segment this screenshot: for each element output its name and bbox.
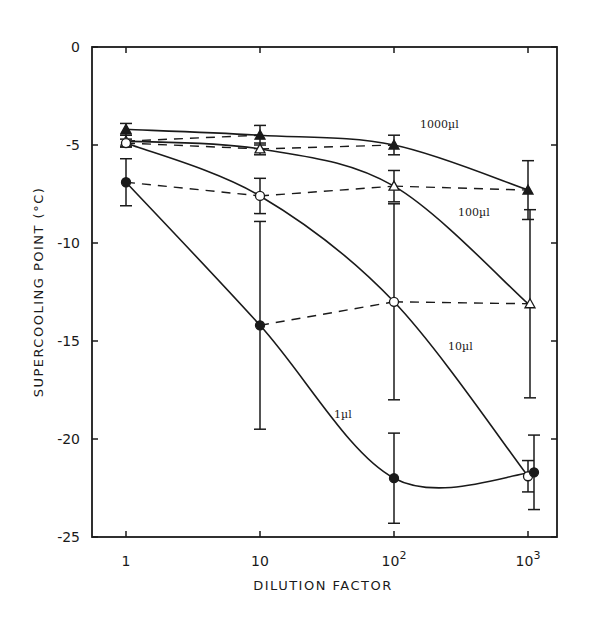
dashed-connector <box>394 186 528 190</box>
dashed-connector <box>260 145 394 149</box>
y-tick-label: -15 <box>57 333 80 349</box>
series-curves <box>126 129 534 488</box>
x-tick-label: 1 <box>122 553 131 569</box>
filled-circle-marker <box>530 468 539 477</box>
series-label: 1000µl <box>420 118 459 131</box>
dashed-connector <box>126 135 260 141</box>
curve-3 <box>126 182 534 488</box>
y-tick-label: -20 <box>57 431 80 447</box>
open-circle-marker <box>390 297 399 306</box>
series-label: 10µl <box>448 340 473 353</box>
axes-box <box>92 47 557 537</box>
open-circle-marker <box>256 191 265 200</box>
y-tick-label: -5 <box>66 137 80 153</box>
filled-circle-marker <box>390 474 399 483</box>
y-axis-title: SUPERCOOLING POINT (°C) <box>31 187 46 398</box>
filled-circle-marker <box>256 321 265 330</box>
x-tick-label: 102 <box>382 549 407 569</box>
series-labels: 1000µl100µl10µl1µl <box>334 118 490 421</box>
y-tick-label: -25 <box>57 529 80 545</box>
curve-0 <box>126 129 528 190</box>
series-label: 1µl <box>334 408 352 421</box>
x-axis-title: DILUTION FACTOR <box>253 578 393 593</box>
plot-frame <box>92 47 557 537</box>
series-label: 100µl <box>458 206 490 219</box>
x-tick-label: 10 <box>251 553 269 569</box>
y-axis-ticks: 0-5-10-15-20-25 <box>57 39 557 545</box>
dashed-connector <box>260 302 394 326</box>
x-axis-ticks: 110102103 <box>122 47 541 569</box>
open-circle-marker <box>122 139 131 148</box>
curve-1 <box>126 141 528 304</box>
supercooling-chart: 0-5-10-15-20-25 110102103 1000µl100µl10µ… <box>0 0 589 620</box>
error-bars <box>120 123 540 523</box>
filled-circle-marker <box>122 178 131 187</box>
dashed-connector <box>126 182 260 196</box>
y-tick-label: 0 <box>71 39 80 55</box>
dashed-connector <box>260 186 394 196</box>
dashed-connector <box>394 302 528 304</box>
y-tick-label: -10 <box>57 235 80 251</box>
x-tick-label: 103 <box>516 549 541 569</box>
curve-2 <box>126 143 528 476</box>
